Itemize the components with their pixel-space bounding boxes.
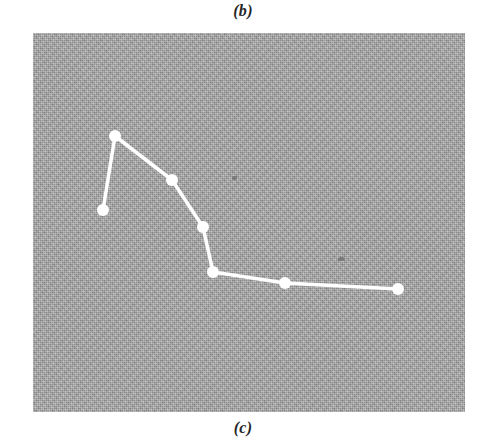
series-markers [97,130,404,295]
data-point-marker [166,174,178,186]
line-chart-svg [33,33,465,412]
data-point-marker [279,277,291,289]
data-point-marker [97,204,109,216]
data-point-marker [392,283,404,295]
figure-caption-bottom: (c) [0,419,486,437]
series-polyline [103,136,398,289]
plot-panel [33,33,465,412]
data-point-marker [197,221,209,233]
figure-caption-top: (b) [0,2,486,20]
data-point-marker [109,130,121,142]
figure-container: (b) (c) [0,0,486,444]
data-point-marker [207,266,219,278]
